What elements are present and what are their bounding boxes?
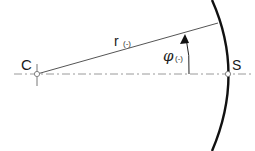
angle-unit-label: (-)	[175, 54, 183, 63]
geometry-diagram: C r (-) φ (-) S	[0, 0, 255, 151]
radius-line	[37, 23, 218, 74]
angle-arrowhead-icon	[180, 34, 189, 44]
center-label: C	[21, 56, 32, 73]
angle-label: φ	[163, 47, 174, 65]
radius-unit-label: (-)	[123, 39, 131, 48]
radius-label: r	[114, 33, 119, 49]
angle-arc	[186, 38, 189, 74]
surface-point-label: S	[232, 57, 241, 73]
center-point	[34, 71, 39, 76]
surface-point	[225, 71, 230, 76]
